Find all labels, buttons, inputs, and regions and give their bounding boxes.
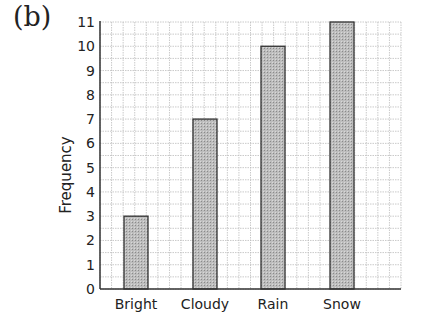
y-tick-label: 9 xyxy=(86,63,95,79)
y-tick-label: 6 xyxy=(86,135,95,151)
y-tick-label: 11 xyxy=(77,14,95,30)
x-category-label: Bright xyxy=(115,296,158,312)
x-axis-labels: BrightCloudyRainSnow xyxy=(115,296,361,312)
y-tick-label: 5 xyxy=(86,160,95,176)
y-tick-label: 0 xyxy=(86,281,95,297)
y-tick-label: 8 xyxy=(86,87,95,103)
y-tick-label: 1 xyxy=(86,257,95,273)
y-tick-label: 4 xyxy=(86,184,95,200)
y-tick-label: 2 xyxy=(86,232,95,248)
bar-snow xyxy=(330,22,354,289)
x-category-label: Cloudy xyxy=(181,296,229,312)
x-category-label: Snow xyxy=(323,296,361,312)
bar-chart: 01234567891011 BrightCloudyRainSnow xyxy=(0,0,421,328)
bar-cloudy xyxy=(193,119,217,289)
y-tick-label: 10 xyxy=(77,38,95,54)
y-tick-label: 7 xyxy=(86,111,95,127)
bar-rain xyxy=(261,46,285,289)
x-category-label: Rain xyxy=(258,296,289,312)
bar-bright xyxy=(124,216,148,289)
y-axis-ticks: 01234567891011 xyxy=(77,14,95,297)
y-tick-label: 3 xyxy=(86,208,95,224)
